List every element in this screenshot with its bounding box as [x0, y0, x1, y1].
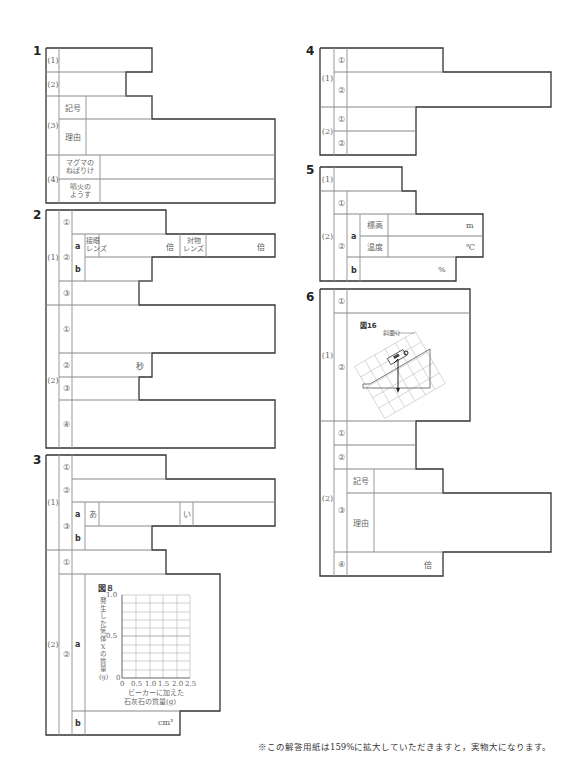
- footnote: ※この解答用紙は159%に拡大していただきますと，実物大になります。: [258, 740, 551, 752]
- answer-field-6-2-1[interactable]: [347, 421, 416, 445]
- q6-2-label: (2): [321, 494, 334, 503]
- q6-2-4-label: ④: [335, 560, 347, 569]
- q6-2-2-label: ②: [335, 453, 347, 462]
- answer-field-6-2-3-symbol[interactable]: [374, 469, 443, 493]
- q6-2-3-reason-label: 理由: [348, 519, 374, 528]
- q6-2-1-label: ①: [335, 429, 347, 438]
- unit-bai: 倍: [424, 559, 432, 570]
- answer-field-6-2-2[interactable]: [347, 445, 416, 469]
- q6-2-3-symbol-label: 記号: [348, 477, 374, 486]
- answer-field-6-2-3-reason[interactable]: [374, 493, 551, 552]
- figure-16-drawing: [0, 0, 585, 768]
- q6-2-3-label: ③: [335, 506, 347, 515]
